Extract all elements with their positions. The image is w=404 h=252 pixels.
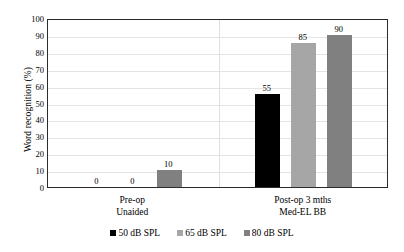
bar [157, 170, 182, 187]
bar [291, 43, 316, 187]
bar-value-label: 0 [120, 177, 145, 186]
y-axis-tick-10: 10 [24, 167, 44, 176]
legend-item[interactable]: 65 dB SPL [177, 228, 227, 238]
category-divider [219, 20, 220, 187]
plot-area [47, 19, 388, 188]
y-axis-tick-80: 80 [24, 49, 44, 58]
bar-chart: Word recognition (%) 1009080706050403020… [0, 0, 404, 252]
legend-label: 65 dB SPL [185, 228, 227, 238]
y-axis-tick-90: 90 [24, 32, 44, 41]
x-category-line-1: Pre-op [52, 195, 212, 207]
legend-swatch-icon [177, 230, 183, 236]
legend-label: 80 dB SPL [252, 228, 294, 238]
y-axis-tick-70: 70 [24, 65, 44, 74]
legend-item[interactable]: 50 dB SPL [110, 228, 160, 238]
bar [327, 35, 352, 187]
legend-swatch-icon [244, 230, 250, 236]
bar-value-label: 55 [254, 84, 279, 93]
x-category-line-2: Med-EL BB [223, 207, 383, 219]
bar-value-label: 10 [156, 160, 181, 169]
x-category-label-pre-op: Pre-opUnaided [52, 195, 212, 218]
bar-value-label: 85 [290, 33, 315, 42]
bar-value-label: 0 [84, 177, 109, 186]
legend-swatch-icon [110, 230, 116, 236]
x-category-line-1: Post-op 3 mths [223, 195, 383, 207]
y-axis-tick-40: 40 [24, 116, 44, 125]
y-axis-tick-100: 100 [24, 15, 44, 24]
y-axis-tick-20: 20 [24, 150, 44, 159]
bar-value-label: 90 [326, 25, 351, 34]
bar [255, 94, 280, 187]
y-axis-tick-30: 30 [24, 133, 44, 142]
y-axis-tick-0: 0 [24, 184, 44, 193]
chart-legend: 50 dB SPL65 dB SPL80 dB SPL [0, 228, 404, 238]
x-category-line-2: Unaided [52, 207, 212, 219]
x-category-label-post-op: Post-op 3 mthsMed-EL BB [223, 195, 383, 218]
legend-label: 50 dB SPL [118, 228, 160, 238]
y-axis-tick-50: 50 [24, 99, 44, 108]
legend-item[interactable]: 80 dB SPL [244, 228, 294, 238]
y-axis-tick-labels: 1009080706050403020100 [24, 19, 44, 188]
y-axis-tick-60: 60 [24, 82, 44, 91]
